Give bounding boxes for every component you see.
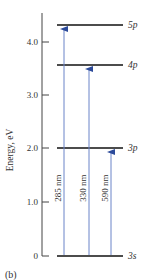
energy-levels: 5p 4p 3p 3s xyxy=(57,20,138,261)
energy-level-diagram: 4.0 3.0 2.0 1.0 0 Energy, eV 5p 4p 3p 3s… xyxy=(0,0,149,280)
figure-caption: (b) xyxy=(5,269,17,280)
level-label: 4p xyxy=(128,60,138,70)
tick-label: 0 xyxy=(34,251,39,261)
level-label: 3s xyxy=(127,251,137,261)
tick-label: 2.0 xyxy=(27,143,39,153)
level-label: 5p xyxy=(128,20,138,30)
wavelength-label: 285 nm xyxy=(53,174,63,201)
tick-label: 4.0 xyxy=(27,37,39,47)
tick-label: 1.0 xyxy=(27,197,39,207)
level-label: 3p xyxy=(127,143,138,153)
wavelength-label: 330 nm xyxy=(78,174,88,201)
tick-label: 3.0 xyxy=(27,90,39,100)
wavelength-label: 590 nm xyxy=(100,174,110,201)
axis-title: Energy, eV xyxy=(5,129,15,172)
y-ticks: 4.0 3.0 2.0 1.0 0 xyxy=(27,37,49,261)
transition-arrows: 285 nm 330 nm 590 nm xyxy=(53,29,111,255)
